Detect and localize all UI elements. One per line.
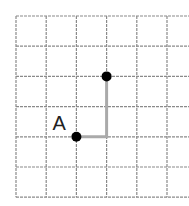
- grid-diagram: [0, 0, 189, 206]
- point-a-dot: [71, 132, 81, 142]
- point-end-dot: [102, 71, 112, 81]
- grid-lines: [16, 16, 189, 197]
- point-a-label: A: [52, 113, 65, 133]
